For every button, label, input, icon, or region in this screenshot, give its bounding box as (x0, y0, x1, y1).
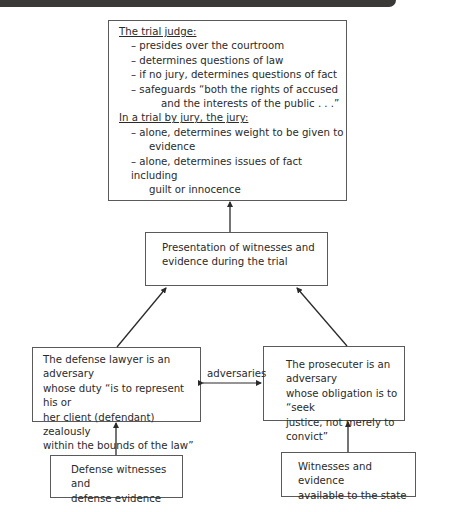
arrow-prosecutor-to-presentation (297, 288, 347, 346)
connector-arrows (0, 0, 466, 512)
arrow-defense-to-presentation (117, 288, 166, 347)
